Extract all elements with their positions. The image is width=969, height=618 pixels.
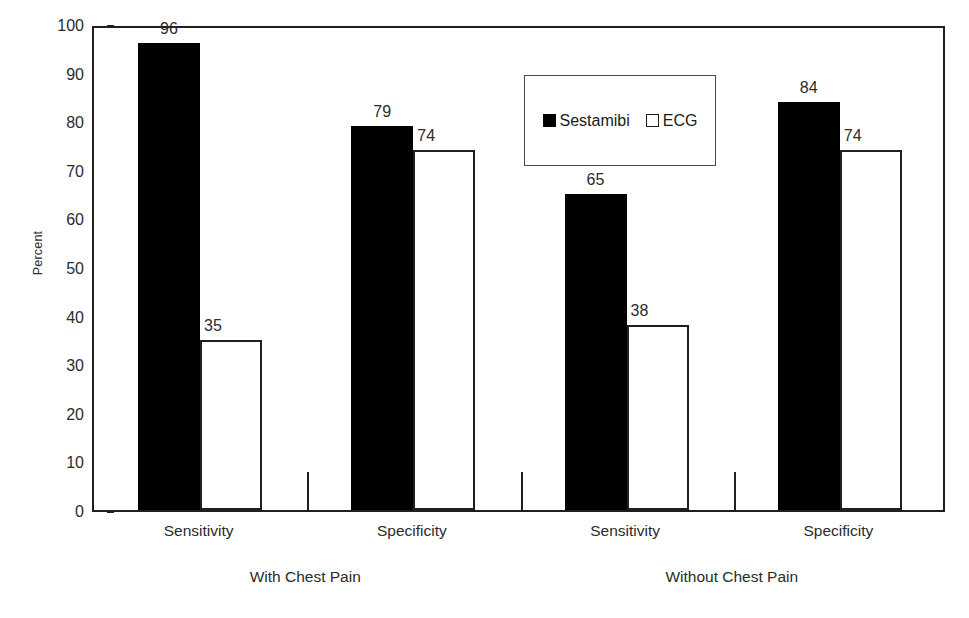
legend-label: Sestamibi: [560, 112, 630, 130]
y-axis-tick-label: 60: [32, 211, 84, 229]
legend-label: ECG: [663, 112, 698, 130]
legend-entries: SestamibiECG: [525, 112, 715, 130]
legend-swatch-icon: [543, 114, 556, 127]
bar-sestamibi-sensitivity: [565, 194, 627, 510]
bar-ecg-sensitivity: [200, 340, 262, 510]
bar-value-label: 96: [160, 20, 178, 38]
x-axis-category-label: Sensitivity: [164, 522, 234, 540]
legend-entry-ecg[interactable]: ECG: [646, 112, 698, 130]
bar-ecg-specificity: [413, 150, 475, 510]
x-axis-group-label: Without Chest Pain: [665, 568, 798, 586]
bar-ecg-specificity: [840, 150, 902, 510]
x-axis-group-label: With Chest Pain: [250, 568, 361, 586]
plot-area: 9635797465388474: [92, 26, 945, 512]
bar-chart-figure: Percent 0102030405060708090100 963579746…: [0, 0, 969, 618]
x-axis-category-label: Specificity: [377, 522, 447, 540]
x-axis-category-separator: [307, 472, 309, 510]
bar-ecg-sensitivity: [627, 325, 689, 510]
bar-value-label: 79: [373, 103, 391, 121]
bar-sestamibi-sensitivity: [138, 43, 200, 510]
bar-value-label: 84: [800, 79, 818, 97]
bar-value-label: 74: [844, 127, 862, 145]
bar-sestamibi-specificity: [351, 126, 413, 510]
y-axis-tick-label: 80: [32, 114, 84, 132]
y-axis-tick-label: 10: [32, 454, 84, 472]
bar-value-label: 38: [631, 302, 649, 320]
legend-entry-sestamibi[interactable]: Sestamibi: [543, 112, 630, 130]
y-axis-tick-label: 100: [32, 17, 84, 35]
x-axis-category-label: Sensitivity: [590, 522, 660, 540]
y-axis-tick-label: 20: [32, 406, 84, 424]
y-axis-tick-label: 70: [32, 163, 84, 181]
y-axis-tick-label: 90: [32, 66, 84, 84]
legend-swatch-icon: [646, 114, 659, 127]
chart-legend: SestamibiECG: [524, 75, 716, 166]
bar-value-label: 35: [204, 317, 222, 335]
y-axis-tick-labels: 0102030405060708090100: [22, 0, 84, 618]
y-axis-tick-label: 50: [32, 260, 84, 278]
x-axis-category-separator: [521, 472, 523, 510]
y-axis-tick-label: 0: [32, 503, 84, 521]
bar-value-label: 65: [587, 171, 605, 189]
x-axis-category-label: Specificity: [803, 522, 873, 540]
bar-value-label: 74: [417, 127, 435, 145]
y-axis-tick-label: 30: [32, 357, 84, 375]
bar-sestamibi-specificity: [778, 102, 840, 510]
y-axis-tick-label: 40: [32, 309, 84, 327]
x-axis-category-separator: [734, 472, 736, 510]
